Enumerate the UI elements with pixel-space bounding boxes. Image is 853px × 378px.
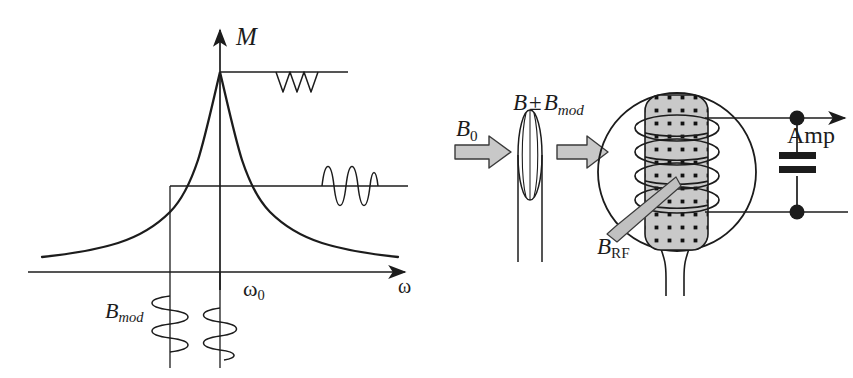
modulation-field-label: Bmod [105, 300, 143, 322]
x-axis-label: ω [398, 276, 411, 296]
resonance-plot-group [28, 30, 408, 368]
omega-subscript: 0 [257, 287, 264, 303]
dotted-sample-block [645, 95, 708, 250]
zero-subscript: 0 [470, 127, 478, 144]
sample-ampoule [518, 110, 542, 262]
resonance-frequency-label: ω0 [243, 278, 265, 300]
b-glyph: B [513, 90, 527, 115]
junction-dot-bottom [790, 205, 805, 220]
rf-field-label: BRF [597, 235, 630, 258]
static-field-label: B0 [456, 117, 478, 140]
figure-root: M ω0 ω Bmod B0 B±Bmod BRF Amp [0, 0, 853, 378]
chamber-stem [660, 246, 690, 296]
capacitor-plate-bottom [779, 166, 816, 173]
b-glyph-2: B [544, 90, 558, 115]
modulated-field-label: B±Bmod [513, 91, 584, 114]
mod-subscript: mod [118, 309, 143, 325]
capacitor-plate-top [779, 152, 816, 159]
amplifier-label: Amp [787, 123, 835, 147]
b-glyph: B [105, 298, 118, 323]
plus-minus-sign: ± [527, 90, 544, 115]
rf-subscript: RF [611, 244, 630, 261]
omega-glyph: ω [243, 276, 257, 301]
mod-subscript: mod [558, 101, 584, 118]
b-glyph: B [597, 234, 611, 259]
y-axis-label: M [236, 24, 257, 49]
peak-modulation-waveform [276, 72, 318, 92]
b-glyph: B [456, 116, 470, 141]
